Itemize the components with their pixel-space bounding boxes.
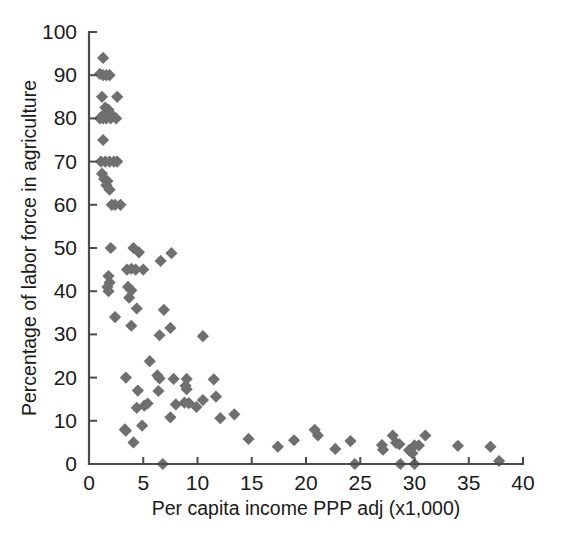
y-tick-label: 50 [54, 236, 77, 259]
data-point [97, 52, 109, 64]
data-point [131, 302, 143, 314]
data-point [214, 412, 226, 424]
y-axis-title: Percentage of labor force in agriculture [18, 80, 40, 416]
y-tick-label: 30 [54, 322, 77, 345]
data-point [493, 455, 505, 467]
data-point [137, 264, 149, 276]
data-point [96, 91, 108, 103]
data-point [329, 443, 341, 455]
x-tick-label: 35 [457, 471, 480, 494]
data-point [484, 441, 496, 453]
data-point [272, 441, 284, 453]
data-point [120, 425, 132, 437]
data-point [165, 247, 177, 259]
x-tick-label: 40 [511, 471, 534, 494]
x-tick-label: 0 [83, 471, 95, 494]
y-tick-label: 0 [65, 452, 77, 475]
data-point [228, 408, 240, 420]
x-tick-label: 10 [186, 471, 209, 494]
y-tick-label: 70 [54, 150, 77, 173]
data-markers-group [94, 52, 505, 470]
y-tick-label: 60 [54, 193, 77, 216]
data-point [97, 134, 109, 146]
data-point [132, 384, 144, 396]
y-tick-label: 90 [54, 63, 77, 86]
data-point [210, 391, 222, 403]
x-axis-title: Per capita income PPP adj (x1,000) [152, 497, 461, 519]
axes-group [89, 32, 523, 464]
data-point [208, 373, 220, 385]
data-point [136, 419, 148, 431]
y-tick-label: 10 [54, 409, 77, 432]
data-point [152, 385, 164, 397]
scatter-plot-figure: 0510152025303540 0102030405060708090100 … [0, 0, 576, 549]
x-tick-group: 0510152025303540 [83, 457, 535, 494]
data-point [452, 440, 464, 452]
data-point [419, 429, 431, 441]
data-point [242, 433, 254, 445]
y-tick-label: 40 [54, 279, 77, 302]
x-tick-label: 5 [137, 471, 149, 494]
data-point [144, 355, 156, 367]
data-point [164, 411, 176, 423]
data-point [127, 436, 139, 448]
data-point [120, 372, 132, 384]
x-tick-label: 30 [403, 471, 426, 494]
data-point [168, 373, 180, 385]
data-point [344, 435, 356, 447]
y-tick-label: 20 [54, 366, 77, 389]
data-point [125, 320, 137, 332]
data-point [158, 304, 170, 316]
data-point [170, 398, 182, 410]
data-point [153, 329, 165, 341]
data-point [111, 91, 123, 103]
x-tick-label: 25 [349, 471, 372, 494]
data-point [155, 255, 167, 267]
data-point [105, 242, 117, 254]
y-tick-label: 80 [54, 106, 77, 129]
chart-canvas: 0510152025303540 0102030405060708090100 … [0, 0, 576, 549]
data-point [197, 330, 209, 342]
data-point [164, 322, 176, 334]
data-point [109, 311, 121, 323]
y-tick-label: 100 [42, 20, 77, 43]
x-tick-label: 15 [240, 471, 263, 494]
data-point [288, 434, 300, 446]
x-tick-label: 20 [294, 471, 317, 494]
